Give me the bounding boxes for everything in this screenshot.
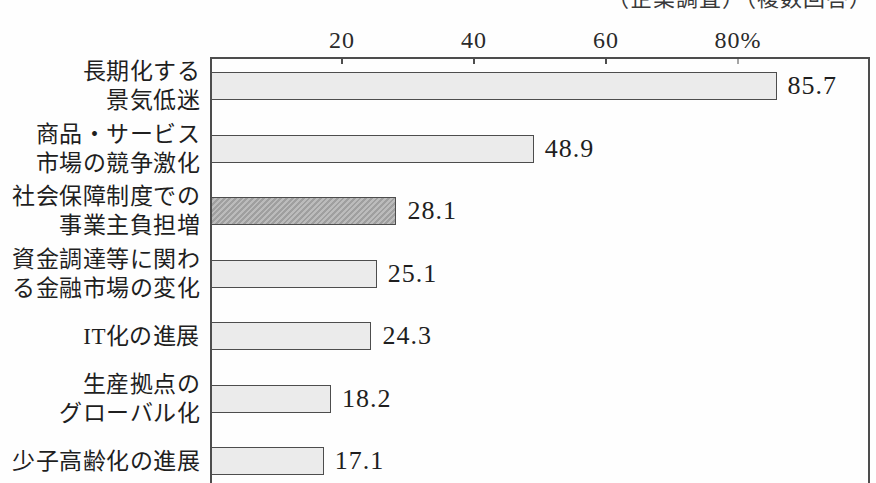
value-label: 24.3 [382, 321, 432, 351]
chart-row-it-ka: IT化の進展 24.3 [0, 322, 876, 350]
tick-mark [473, 57, 475, 64]
bar [211, 135, 534, 163]
category-label: 長期化する 景気低迷 [0, 57, 200, 115]
x-axis-line [210, 57, 869, 59]
bar [211, 72, 777, 100]
category-label-line: 社会保障制度での [0, 182, 200, 211]
category-label: 少子高齢化の進展 [0, 447, 200, 476]
value-label: 25.1 [388, 259, 438, 289]
x-axis-tick-20: 20 [329, 27, 355, 64]
value-label: 85.7 [788, 71, 838, 101]
chart-note: （企業調査）（複数回答） [607, 0, 872, 12]
bar [211, 385, 331, 413]
x-axis-tick-60: 60 [593, 27, 619, 64]
value-label: 48.9 [545, 134, 595, 164]
tick-mark [341, 57, 343, 64]
category-label-line: 資金調達等に関わ [0, 245, 200, 274]
chart-row-kyoso-gekika: 商品・サービス 市場の競争激化 48.9 [0, 135, 876, 163]
category-label: 資金調達等に関わ る金融市場の変化 [0, 245, 200, 303]
category-label-line: 景気低迷 [0, 86, 200, 115]
bar [211, 322, 371, 350]
category-label-line: 事業主負担増 [0, 211, 200, 240]
category-label-line: IT化の進展 [0, 322, 200, 351]
bar-emphasized [211, 197, 396, 225]
x-axis-tick-80: 80% [715, 27, 762, 64]
category-label-line: る金融市場の変化 [0, 274, 200, 303]
chart-row-global-ka: 生産拠点の グローバル化 18.2 [0, 385, 876, 413]
tick-mark [737, 57, 739, 64]
chart-row-shikin-chotatsu: 資金調達等に関わ る金融市場の変化 25.1 [0, 260, 876, 288]
category-label: 社会保障制度での 事業主負担増 [0, 182, 200, 240]
bar-chart-figure: （企業調査）（複数回答） 20 40 60 80% 長期化する 景気低迷 85.… [0, 0, 876, 483]
category-label-line: 長期化する [0, 57, 200, 86]
category-label-line: グローバル化 [0, 399, 200, 428]
bar [211, 260, 377, 288]
value-label: 17.1 [335, 446, 385, 476]
x-axis-tick-40: 40 [461, 27, 487, 64]
tick-mark [605, 57, 607, 64]
bar [211, 447, 324, 475]
value-label: 18.2 [342, 384, 392, 414]
category-label-line: 市場の競争激化 [0, 149, 200, 178]
value-label: 28.1 [407, 196, 457, 226]
category-label-line: 生産拠点の [0, 370, 200, 399]
tick-label: 60 [593, 27, 619, 53]
tick-label: 40 [461, 27, 487, 53]
chart-row-shakai-hosho: 社会保障制度での 事業主負担増 28.1 [0, 197, 876, 225]
category-label: IT化の進展 [0, 322, 200, 351]
tick-label: 20 [329, 27, 355, 53]
category-label-line: 少子高齢化の進展 [0, 447, 200, 476]
category-label-line: 商品・サービス [0, 120, 200, 149]
category-label: 生産拠点の グローバル化 [0, 370, 200, 428]
chart-row-keiki-teimei: 長期化する 景気低迷 85.7 [0, 72, 876, 100]
category-label: 商品・サービス 市場の競争激化 [0, 120, 200, 178]
tick-label: 80% [715, 27, 762, 53]
chart-row-shoshi-korei: 少子高齢化の進展 17.1 [0, 447, 876, 475]
